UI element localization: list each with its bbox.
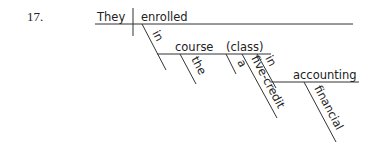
article-a-word: a xyxy=(234,57,250,70)
verb-word: enrolled xyxy=(141,10,188,24)
subject-word: They xyxy=(96,10,125,24)
article-the-word: the xyxy=(188,54,209,77)
article-a-diagonal xyxy=(226,54,236,74)
sentence-diagram: 17. They enrolled in course (class) the … xyxy=(0,0,369,148)
prep2-adjective-word: financial xyxy=(311,83,346,133)
exercise-number: 17. xyxy=(27,9,43,24)
appositive-word: (class) xyxy=(226,40,264,54)
prep2-object-word: accounting xyxy=(293,68,357,82)
prep-in-word: in xyxy=(149,28,166,44)
object-word: course xyxy=(175,40,213,54)
